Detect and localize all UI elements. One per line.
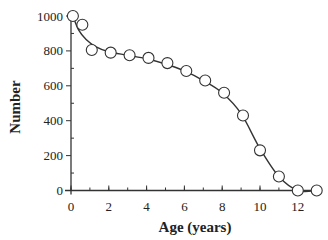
data-point-marker — [67, 11, 78, 22]
data-point-marker — [219, 87, 230, 98]
data-point-marker — [237, 110, 248, 121]
y-tick-label: 600 — [44, 78, 64, 93]
data-point-marker — [143, 52, 154, 63]
data-point-marker — [311, 185, 322, 196]
y-tick-label: 0 — [57, 183, 64, 198]
y-axis-title: Number — [7, 80, 23, 134]
axes: 02004006008001000024681012 — [37, 9, 320, 214]
y-tick-label: 400 — [44, 113, 64, 128]
data-point-marker — [292, 185, 303, 196]
chart-svg: 02004006008001000024681012 Age (years) N… — [0, 0, 328, 240]
x-tick-label: 10 — [254, 199, 267, 214]
data-point-marker — [105, 47, 116, 58]
data-point-marker — [255, 145, 266, 156]
data-point-marker — [162, 58, 173, 69]
survivorship-chart: 02004006008001000024681012 Age (years) N… — [0, 0, 328, 240]
x-tick-label: 8 — [219, 199, 226, 214]
data-point-marker — [181, 65, 192, 76]
x-tick-label: 12 — [291, 199, 304, 214]
y-tick-label: 200 — [44, 148, 64, 163]
x-tick-label: 6 — [181, 199, 188, 214]
y-tick-label: 1000 — [37, 9, 63, 24]
x-axis-title: Age (years) — [159, 219, 232, 236]
data-markers — [67, 11, 322, 197]
data-point-marker — [200, 75, 211, 86]
data-point-marker — [273, 171, 284, 182]
x-tick-label: 2 — [106, 199, 113, 214]
y-tick-label: 800 — [44, 43, 64, 58]
data-point-marker — [86, 45, 97, 56]
x-tick-label: 0 — [68, 199, 75, 214]
data-point-marker — [124, 50, 135, 61]
x-tick-label: 4 — [143, 199, 150, 214]
fitted-curve-path — [73, 16, 317, 192]
fitted-curve — [73, 16, 317, 192]
data-point-marker — [77, 19, 88, 30]
